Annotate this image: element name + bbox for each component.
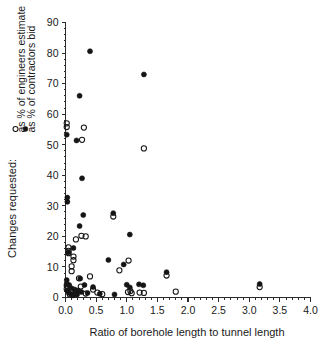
data-point [141, 72, 146, 77]
x-axis-tick-labels: 0.00.51.01.52.02.53.03.54.0 [58, 304, 318, 316]
x-axis-title: Ratio of borehole length to tunnel lengt… [89, 326, 284, 338]
x-tick-label: 0.0 [58, 304, 73, 316]
x-tick-label: 3.5 [273, 304, 288, 316]
x-tick-label: 2.5 [211, 304, 226, 316]
data-point [88, 49, 93, 54]
data-point [65, 288, 70, 293]
x-tick-label: 2.0 [181, 304, 196, 316]
y-tick-label: 0 [53, 291, 59, 303]
x-tick-label: 0.5 [89, 304, 104, 316]
y-tick-label: 40 [47, 169, 59, 181]
data-point [77, 224, 82, 229]
data-point [106, 257, 111, 262]
data-point [66, 250, 71, 255]
y-tick-label: 30 [47, 200, 59, 212]
data-point [121, 262, 126, 267]
data-point [77, 93, 82, 98]
data-point [78, 276, 83, 281]
data-point [64, 132, 69, 137]
y-tick-label: 10 [47, 261, 59, 273]
scatter-plot-figure: 0102030405060708090 0.00.51.01.52.02.53.… [0, 0, 324, 349]
data-point [141, 283, 146, 288]
y-tick-label: 70 [47, 77, 59, 89]
data-point [97, 291, 102, 296]
data-point [127, 232, 132, 237]
data-point [82, 282, 87, 287]
data-point [75, 292, 80, 297]
x-tick-label: 4.0 [303, 304, 318, 316]
y-tick-label: 20 [47, 230, 59, 242]
data-point [257, 282, 262, 287]
y-tick-label: 50 [47, 139, 59, 151]
data-point [80, 176, 85, 181]
data-point [91, 285, 96, 290]
data-point [85, 290, 90, 295]
data-point [81, 213, 86, 218]
data-point [112, 292, 117, 297]
y-axis-title: Changes requested: [6, 159, 18, 258]
x-tick-label: 1.0 [119, 304, 134, 316]
legend-label-contractors-bid: as % of contractors bid [25, 26, 37, 133]
data-point [74, 138, 79, 143]
y-tick-label: 90 [47, 16, 59, 28]
y-tick-label: 60 [47, 108, 59, 120]
data-point [111, 211, 116, 216]
x-tick-label: 1.5 [150, 304, 165, 316]
data-point [127, 285, 132, 290]
data-point [164, 270, 169, 275]
x-tick-label: 3.0 [242, 304, 257, 316]
data-point [71, 246, 76, 251]
data-point [65, 199, 70, 204]
y-tick-label: 80 [47, 47, 59, 59]
